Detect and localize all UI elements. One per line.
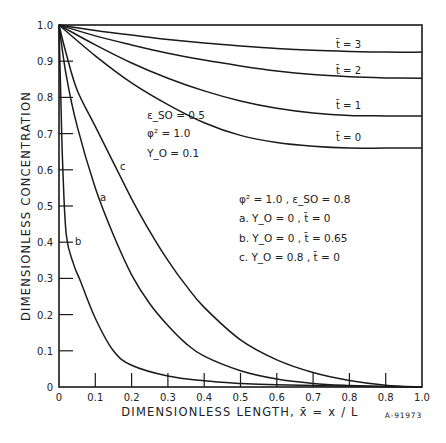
curve-c xyxy=(59,25,422,387)
annotation-yo: Y_O = 0.1 xyxy=(146,147,199,160)
curve-t0 xyxy=(59,25,422,148)
curve-label-c: c xyxy=(120,161,126,172)
y-tick-label: 0.8 xyxy=(37,92,53,103)
y-tick-label: 1.0 xyxy=(37,20,53,31)
chart-figure: 00.10.20.30.40.50.60.70.80.81.0 00.10.20… xyxy=(0,0,446,443)
y-tick-label: 0.6 xyxy=(37,165,53,176)
y-tick-label: 0.3 xyxy=(37,273,53,284)
plot-frame xyxy=(59,25,422,387)
y-tick-label: 0.7 xyxy=(37,129,53,140)
y-tick-labels: 00.10.20.30.40.50.60.70.80.91.0 xyxy=(37,20,53,393)
x-tick-label: 0.7 xyxy=(305,392,321,403)
y-tick-label: 0.9 xyxy=(37,56,53,67)
y-axis-title: DIMENSIONLESS CONCENTRATION xyxy=(19,91,33,321)
x-tick-label: 0.6 xyxy=(269,392,285,403)
curve-t3 xyxy=(59,25,422,52)
x-tick-label: 0.8 xyxy=(341,392,357,403)
curve-label-b: b xyxy=(75,236,81,247)
figure-id: A-91973 xyxy=(385,411,422,420)
annotation-group-2: φ² = 1.0 , ε_SO = 0.8 a. Y_O = 0 , t̄ = … xyxy=(239,193,350,264)
x-tick-label: 0.5 xyxy=(233,392,249,403)
chart-curves xyxy=(59,25,422,387)
curve-label-a: a xyxy=(100,192,106,203)
annotation-b: b. Y_O = 0 , t̄ = 0.65 xyxy=(239,232,347,245)
curve-a xyxy=(59,25,422,387)
y-tick-label: 0.2 xyxy=(37,310,53,321)
x-tick-label: 0.4 xyxy=(196,392,212,403)
y-tick-label: 0.4 xyxy=(37,237,53,248)
annotation-a: a. Y_O = 0 , t̄ = 0 xyxy=(239,212,330,225)
y-tick-label: 0.5 xyxy=(37,201,53,212)
curve-label-t2: t̄ = 2 xyxy=(336,64,361,76)
x-tick-label: 0.3 xyxy=(160,392,176,403)
annotation-eps: ε_SO = 0.5 xyxy=(147,109,205,122)
y-tick-label: 0.1 xyxy=(37,346,53,357)
curve-label-t0: t̄ = 0 xyxy=(336,131,361,143)
x-tick-labels: 00.10.20.30.40.50.60.70.80.81.0 xyxy=(56,392,430,403)
annotation-c: c. Y_O = 0.8 , t̄ = 0 xyxy=(239,251,340,264)
curve-label-t3: t̄ = 3 xyxy=(336,38,361,50)
x-tick-label: 0.2 xyxy=(124,392,140,403)
y-tick-label: 0 xyxy=(47,382,53,393)
annotation-group-1: ε_SO = 0.5 φ² = 1.0 Y_O = 0.1 xyxy=(146,109,205,160)
x-axis-title: DIMENSIONLESS LENGTH, x̄ = x / L xyxy=(121,405,358,419)
annotation-params: φ² = 1.0 , ε_SO = 0.8 xyxy=(239,193,350,206)
curve-b xyxy=(59,25,422,387)
curve-label-t1: t̄ = 1 xyxy=(336,99,361,111)
annotation-phi: φ² = 1.0 xyxy=(147,127,190,139)
x-tick-label: 1.0 xyxy=(414,392,430,403)
x-tick-label: 0.1 xyxy=(87,392,103,403)
x-tick-label: 0.8 xyxy=(378,392,394,403)
x-tick-label: 0 xyxy=(56,392,62,403)
